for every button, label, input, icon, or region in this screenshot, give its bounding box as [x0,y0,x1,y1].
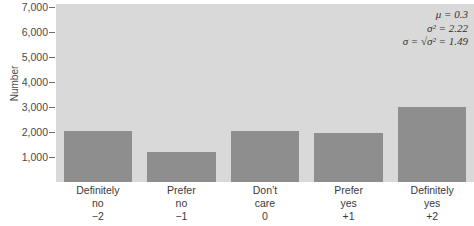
mean-annotation: μ = 0.3 [403,8,468,22]
x-label-line-3: −2 [56,210,140,223]
y-axis-tick-mark [49,132,55,133]
x-label-line-3: +2 [390,210,474,223]
y-axis-tick-label: 4,000 [0,76,48,88]
bar [398,107,467,182]
y-axis-tick-mark [49,57,55,58]
x-axis-category-label: Preferyes+1 [307,184,391,223]
x-label-line-2: yes [307,197,391,210]
y-axis-tick-mark [49,7,55,8]
y-axis-tick-mark [49,32,55,33]
x-label-line-1: Definitely [390,184,474,197]
x-label-line-3: −1 [140,210,224,223]
y-axis-tick-mark [49,107,55,108]
x-label-line-3: 0 [223,210,307,223]
bar [147,152,216,182]
x-label-line-2: no [140,197,224,210]
y-axis-tick-label: 1,000 [0,151,48,163]
statistics-annotation: μ = 0.3 σ² = 2.22 σ = √σ² = 1.49 [403,8,468,49]
x-label-line-3: +1 [307,210,391,223]
x-label-line-1: Definitely [56,184,140,197]
y-axis-tick-label: 2,000 [0,126,48,138]
x-label-line-1: Prefer [140,184,224,197]
x-label-line-2: care [223,197,307,210]
x-axis-category-label: Don’tcare0 [223,184,307,223]
x-axis-category-label: Definitelyyes+2 [390,184,474,223]
bar [314,133,383,182]
sigma-prefix: σ = [403,35,421,47]
y-axis-tick-label: 6,000 [0,26,48,38]
variance-annotation: σ² = 2.22 [403,22,468,36]
x-label-line-2: no [56,197,140,210]
bar-chart: Number 1,0002,0003,0004,0005,0006,0007,0… [0,0,474,226]
x-label-line-1: Prefer [307,184,391,197]
bar [231,131,300,182]
y-axis-tick-mark [49,157,55,158]
x-axis-labels: Definitelyno−2Preferno−1Don’tcare0Prefer… [56,184,474,226]
x-axis-category-label: Preferno−1 [140,184,224,223]
plot-area: μ = 0.3 σ² = 2.22 σ = √σ² = 1.49 [56,4,474,182]
x-label-line-1: Don’t [223,184,307,197]
y-axis-tick-label: 7,000 [0,1,48,13]
y-axis-tick-mark [49,82,55,83]
radicand: σ² [427,35,436,47]
x-axis-category-label: Definitelyno−2 [56,184,140,223]
y-axis-tick-label: 5,000 [0,51,48,63]
y-axis-tick-label: 3,000 [0,101,48,113]
sigma-suffix: = 1.49 [436,35,468,47]
sigma-annotation: σ = √σ² = 1.49 [403,35,468,49]
x-label-line-2: yes [390,197,474,210]
bar [64,131,133,182]
